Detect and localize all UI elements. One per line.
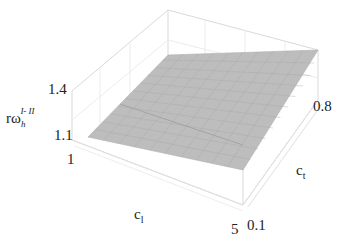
z-tick-1.1: 1.1 (54, 128, 73, 143)
surface (72, 50, 318, 205)
y-tick-0.8: 0.8 (313, 99, 332, 114)
y-label-base: c (296, 162, 303, 178)
z-tick-1.4: 1.4 (48, 82, 67, 97)
surface-plot (0, 0, 338, 241)
x-axis-label: cl (134, 207, 143, 225)
z-label-sub: h (21, 119, 26, 129)
y-axis-label: ct (296, 163, 305, 181)
x-tick-5: 5 (231, 222, 239, 237)
y-tick-0.1: 0.1 (247, 218, 266, 233)
x-label-base: c (134, 206, 141, 222)
z-label-base: rω (6, 110, 21, 126)
z-axis-label: rωhI- II (6, 107, 35, 129)
y-label-sub: t (303, 170, 306, 181)
z-label-sup: I- II (20, 106, 34, 116)
x-label-sub: l (141, 214, 144, 225)
z-tick-1: 1 (67, 152, 75, 167)
